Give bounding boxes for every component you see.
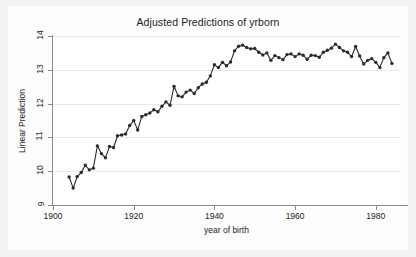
y-tick-12 bbox=[48, 104, 52, 105]
data-point bbox=[245, 46, 248, 49]
data-point bbox=[176, 94, 179, 97]
data-point bbox=[281, 58, 284, 61]
data-point bbox=[330, 46, 333, 49]
data-point bbox=[152, 108, 155, 111]
y-tick-label-text: 13 bbox=[34, 64, 44, 73]
data-point bbox=[128, 124, 131, 127]
data-point bbox=[378, 66, 381, 69]
data-point bbox=[322, 51, 325, 54]
x-tick-1960 bbox=[295, 206, 296, 210]
series-line bbox=[69, 44, 392, 188]
data-point bbox=[213, 63, 216, 66]
y-axis-line bbox=[52, 35, 53, 206]
data-point bbox=[197, 86, 200, 89]
data-point bbox=[188, 88, 191, 91]
data-point bbox=[293, 55, 296, 58]
data-point bbox=[350, 55, 353, 58]
x-tick-label-1940: 1940 bbox=[194, 211, 234, 221]
data-point bbox=[310, 54, 313, 57]
data-point bbox=[269, 59, 272, 62]
x-axis-title: year of birth bbox=[53, 225, 400, 235]
data-point bbox=[217, 66, 220, 69]
data-point bbox=[96, 144, 99, 147]
data-point bbox=[116, 134, 119, 137]
data-point bbox=[67, 175, 70, 178]
data-point bbox=[366, 59, 369, 62]
chart-title: Adjusted Predictions of yrborn bbox=[8, 16, 408, 28]
data-point bbox=[120, 133, 123, 136]
data-point bbox=[253, 47, 256, 50]
data-point bbox=[160, 105, 163, 108]
data-point bbox=[201, 82, 204, 85]
plot-area bbox=[53, 36, 400, 205]
y-axis-title-label: Linear Prediction bbox=[17, 89, 27, 153]
y-tick-label-text: 10 bbox=[34, 165, 44, 174]
x-tick-1920 bbox=[134, 206, 135, 210]
data-point bbox=[237, 44, 240, 47]
data-point bbox=[338, 46, 341, 49]
data-point bbox=[136, 128, 139, 131]
data-point bbox=[140, 115, 143, 118]
data-point bbox=[390, 62, 393, 65]
data-point bbox=[172, 85, 175, 88]
data-point bbox=[297, 52, 300, 55]
data-point bbox=[132, 119, 135, 122]
data-point bbox=[124, 132, 127, 135]
data-point bbox=[112, 146, 115, 149]
data-point bbox=[108, 145, 111, 148]
y-tick-label-text: 11 bbox=[35, 132, 45, 141]
y-tick-label-text: 12 bbox=[34, 98, 44, 107]
data-point bbox=[249, 47, 252, 50]
data-point bbox=[180, 95, 183, 98]
data-point bbox=[326, 49, 329, 52]
data-point bbox=[164, 100, 167, 103]
data-point bbox=[168, 104, 171, 107]
x-tick-label-1960: 1960 bbox=[275, 211, 315, 221]
series-markers bbox=[67, 42, 393, 189]
x-tick-1980 bbox=[376, 206, 377, 210]
data-point bbox=[289, 52, 292, 55]
data-point bbox=[88, 168, 91, 171]
data-point bbox=[277, 56, 280, 59]
data-point bbox=[144, 113, 147, 116]
data-point bbox=[342, 49, 345, 52]
x-axis-line bbox=[52, 205, 408, 206]
data-point bbox=[374, 61, 377, 64]
data-point bbox=[184, 90, 187, 93]
data-point bbox=[261, 53, 264, 56]
data-point bbox=[358, 54, 361, 57]
y-tick-10 bbox=[48, 171, 52, 172]
data-point bbox=[104, 156, 107, 159]
data-point bbox=[354, 45, 357, 48]
data-point bbox=[370, 57, 373, 60]
data-point bbox=[100, 152, 103, 155]
x-tick-label-1900: 1900 bbox=[33, 211, 73, 221]
x-tick-1940 bbox=[214, 206, 215, 210]
data-point bbox=[148, 111, 151, 114]
data-point bbox=[301, 54, 304, 57]
data-point bbox=[76, 175, 79, 178]
data-point bbox=[285, 53, 288, 56]
x-tick-label-1920: 1920 bbox=[114, 211, 154, 221]
data-point bbox=[346, 51, 349, 54]
data-point bbox=[205, 81, 208, 84]
y-axis-title: Linear Prediction bbox=[16, 36, 28, 205]
data-point bbox=[71, 186, 74, 189]
y-tick-9 bbox=[48, 205, 52, 206]
y-tick-13 bbox=[48, 70, 52, 71]
data-point bbox=[225, 64, 228, 67]
chart-screenshot: Adjusted Predictions of yrborn 910111213… bbox=[0, 0, 416, 257]
y-tick-14 bbox=[48, 36, 52, 37]
data-point bbox=[314, 54, 317, 57]
data-point bbox=[265, 51, 268, 54]
y-tick-label-text: 14 bbox=[34, 30, 44, 39]
data-point bbox=[156, 110, 159, 113]
data-point bbox=[92, 166, 95, 169]
y-tick-label-text: 9 bbox=[37, 202, 47, 207]
data-point bbox=[362, 62, 365, 65]
data-point bbox=[386, 51, 389, 54]
data-point bbox=[334, 42, 337, 45]
data-point bbox=[318, 56, 321, 59]
data-point bbox=[84, 163, 87, 166]
data-point bbox=[229, 60, 232, 63]
